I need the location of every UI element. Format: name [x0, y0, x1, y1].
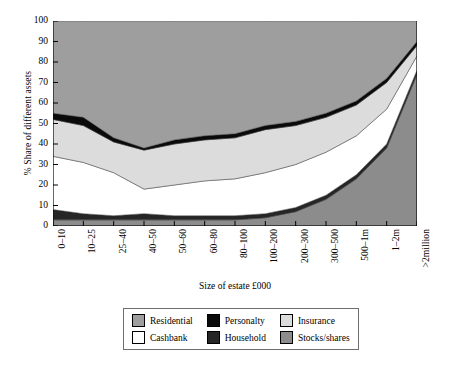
x-tick-label: 80–100	[239, 229, 249, 258]
x-tick-label: 100–200	[269, 229, 279, 263]
y-axis-tick-labels: 0102030405060708090100	[18, 21, 48, 226]
x-tick-label: 40–50	[148, 229, 158, 253]
x-tick-label: 200–300	[300, 229, 310, 263]
stacked-area-plot	[53, 21, 417, 226]
x-tick-label: 0–10	[57, 229, 67, 248]
x-tick-label: >2million	[421, 229, 431, 267]
x-tick-label: 60–80	[209, 229, 219, 253]
y-tick-label: 70	[22, 78, 48, 88]
legend-item: Cashbank	[132, 331, 193, 344]
legend-item: Stocks/shares	[280, 331, 350, 344]
plot-area	[53, 21, 417, 226]
x-axis-tick-labels: 0–1010–2525–4040–5050–6060–8080–100100–2…	[53, 229, 417, 281]
legend-item: Residential	[132, 314, 193, 327]
legend-item: Personalty	[207, 314, 266, 327]
legend-swatch	[280, 331, 293, 344]
legend-label: Stocks/shares	[298, 333, 350, 343]
x-tick-label: 300–500	[330, 229, 340, 263]
y-tick-label: 10	[22, 201, 48, 211]
y-tick-label: 100	[22, 16, 48, 26]
y-tick-label: 80	[22, 57, 48, 67]
legend-swatch	[207, 314, 220, 327]
x-axis-title: Size of estate £000	[53, 281, 417, 291]
legend-swatch	[207, 331, 220, 344]
y-tick-label: 90	[22, 37, 48, 47]
x-tick-label: 10–25	[87, 229, 97, 253]
legend-label: Cashbank	[150, 333, 187, 343]
legend-label: Residential	[150, 316, 193, 326]
y-tick-label: 20	[22, 180, 48, 190]
x-tick-label: 500–1m	[360, 229, 370, 261]
legend-item: Household	[207, 331, 266, 344]
x-tick-label: 50–60	[178, 229, 188, 253]
y-tick-label: 30	[22, 160, 48, 170]
legend-label: Personalty	[225, 316, 265, 326]
legend-swatch	[132, 314, 145, 327]
chart-figure: % Share of different assets 010203040506…	[0, 0, 449, 369]
legend-label: Household	[225, 333, 266, 343]
chart-legend: ResidentialPersonaltyInsuranceCashbankHo…	[123, 308, 359, 350]
x-tick-label: 25–40	[118, 229, 128, 253]
legend-swatch	[280, 314, 293, 327]
legend-label: Insurance	[298, 316, 335, 326]
y-tick-label: 60	[22, 98, 48, 108]
y-tick-label: 40	[22, 139, 48, 149]
legend-item: Insurance	[280, 314, 350, 327]
x-tick-label: 1–2m	[391, 229, 401, 251]
legend-swatch	[132, 331, 145, 344]
y-tick-label: 0	[22, 221, 48, 231]
y-tick-label: 50	[22, 119, 48, 129]
